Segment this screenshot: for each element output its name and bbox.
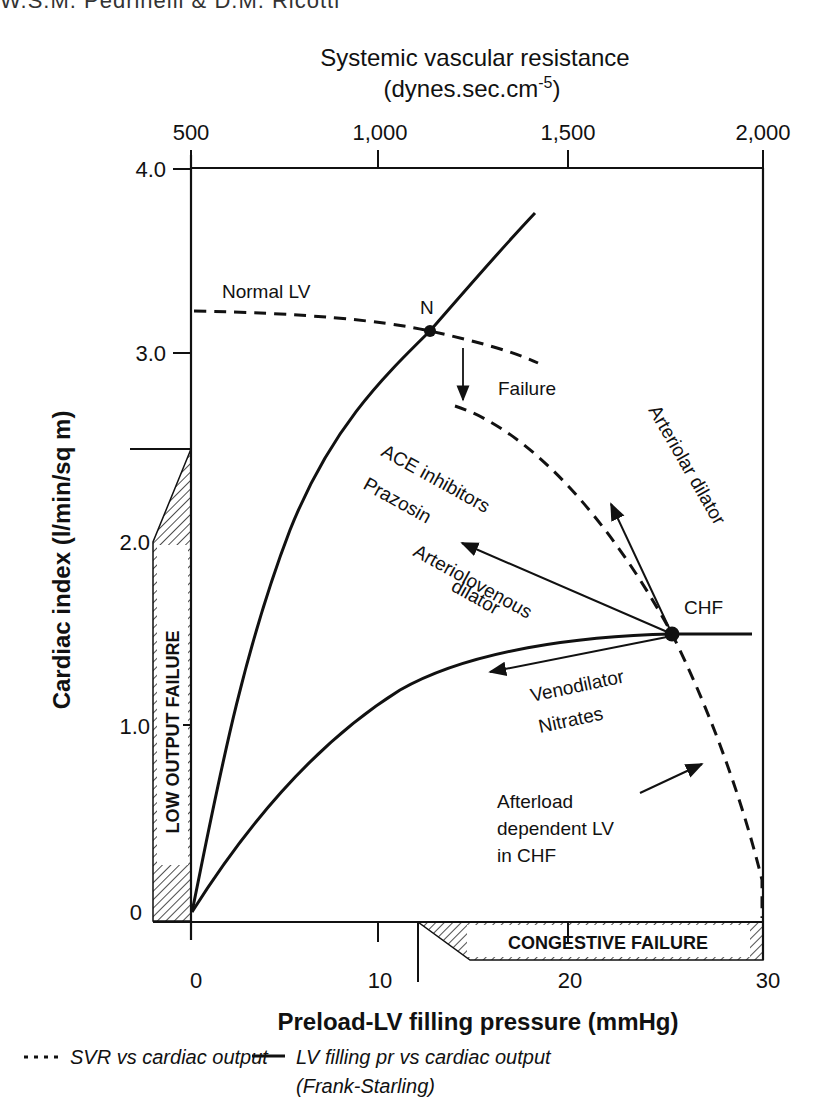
label-afterload: Afterload: [497, 791, 573, 812]
chf-frank-starling-curve: [192, 634, 752, 912]
point-n: [424, 325, 436, 337]
top-axis-units: (dynes.sec.cm-5): [384, 74, 561, 102]
label-n: N: [420, 297, 434, 318]
label-arteriolar-dilator: Arteriolar dilator: [645, 402, 731, 529]
legend-solid-label-2: (Frank-Starling): [296, 1075, 435, 1097]
legend-dashed-label: SVR vs cardiac output: [70, 1046, 269, 1068]
x-tick-label: 0: [190, 968, 202, 993]
label-venodilator: Venodilator: [528, 665, 626, 705]
arteriolar-arrow: [611, 504, 672, 634]
x-axis-ticks: 0 10 20 30: [190, 968, 780, 993]
normal-frank-starling-curve: [192, 213, 535, 912]
afterload-arrow: [640, 764, 702, 793]
label-failure: Failure: [498, 378, 556, 399]
y-tick-label: 0: [130, 900, 142, 925]
y-tick-label: 3.0: [135, 341, 166, 366]
hemodynamic-chart: Systemic vascular resistance (dynes.sec.…: [0, 0, 837, 1118]
x-tick-label: 20: [558, 968, 582, 993]
axes: [153, 155, 763, 960]
legend-solid-label: LV filling pr vs cardiac output: [296, 1046, 552, 1068]
x-tick-label: 30: [756, 968, 780, 993]
chf-svr-dashed-curve: [455, 406, 762, 918]
normal-svr-dashed-curve: [194, 311, 538, 363]
label-arteriolovenous: Arteriolovenous: [410, 540, 536, 622]
label-dependent-lv: dependent LV: [497, 818, 614, 839]
legend: SVR vs cardiac output LV filling pr vs c…: [24, 1046, 552, 1097]
top-axis: 500 1,000 1,500 2,000: [173, 120, 791, 168]
top-tick-label: 1,500: [540, 120, 595, 145]
y-axis-label: Cardiac index (l/min/sq m): [48, 411, 75, 710]
congestive-failure-region: CONGESTIVE FAILURE: [418, 922, 763, 982]
y-tick-label: 2.0: [119, 530, 150, 555]
label-nitrates: Nitrates: [536, 703, 604, 737]
low-output-failure-region: LOW OUTPUT FAILURE: [130, 449, 191, 921]
congestive-failure-label: CONGESTIVE FAILURE: [508, 933, 708, 953]
y-tick-label: 1.0: [119, 714, 150, 739]
label-chf: CHF: [684, 597, 723, 618]
top-tick-label: 2,000: [735, 120, 790, 145]
label-normal-lv: Normal LV: [222, 281, 311, 302]
annotations: Normal LV N Failure CHF ACE inhibitors P…: [222, 281, 730, 866]
curves: [192, 213, 762, 918]
label-in-chf: in CHF: [497, 845, 556, 866]
y-tick-label: 4.0: [135, 157, 166, 182]
top-axis-title: Systemic vascular resistance: [320, 44, 629, 71]
x-tick-label: 10: [368, 968, 392, 993]
top-tick-label: 500: [173, 120, 210, 145]
top-tick-label: 1,000: [352, 120, 407, 145]
low-output-failure-label: LOW OUTPUT FAILURE: [163, 631, 183, 834]
x-axis-label: Preload-LV filling pressure (mmHg): [278, 1008, 679, 1035]
